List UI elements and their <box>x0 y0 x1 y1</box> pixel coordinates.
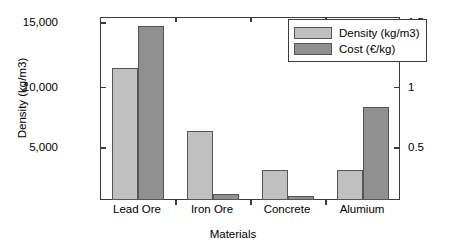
legend-label-cost: Cost (€/kg) <box>339 43 395 55</box>
left-tick-label: 15,000 <box>23 16 58 28</box>
category-label-lead-ore: Lead Ore <box>113 203 161 215</box>
legend: Density (kg/m3) Cost (€/kg) <box>288 19 427 62</box>
left-tick-label: 5,000 <box>29 141 58 153</box>
category-label-iron-ore: Iron Ore <box>191 203 233 215</box>
bottom-tick-mark <box>325 200 327 205</box>
bar-cost-concrete <box>288 196 314 200</box>
top-tick-mark <box>175 17 177 22</box>
bar-cost-alumium <box>363 107 389 200</box>
y-axis-left-title: Density (kg/m3) <box>16 28 28 168</box>
bar-cost-iron-ore <box>213 194 239 200</box>
left-tick-mark <box>100 87 106 89</box>
legend-swatch-cost-icon <box>294 43 332 55</box>
legend-label-density: Density (kg/m3) <box>339 27 420 39</box>
top-tick-mark <box>250 17 252 22</box>
left-tick-label: 10,000 <box>23 81 58 93</box>
category-label-concrete: Concrete <box>264 203 311 215</box>
bar-chart: 15,000 10,000 5,000 1.5 1 0.5 Lead Ore I… <box>0 0 466 247</box>
bar-density-alumium <box>337 170 363 200</box>
right-tick-label: 0.5 <box>408 141 424 153</box>
right-tick-mark <box>394 147 400 149</box>
right-tick-mark <box>394 87 400 89</box>
left-tick-mark <box>100 147 106 149</box>
right-tick-label: 1 <box>408 81 414 93</box>
bar-density-lead-ore <box>112 68 138 200</box>
legend-entry-density: Density (kg/m3) <box>294 25 420 40</box>
bottom-tick-mark <box>175 200 177 205</box>
category-label-alumium: Alumium <box>340 203 385 215</box>
legend-entry-cost: Cost (€/kg) <box>294 41 420 56</box>
left-tick-mark <box>100 22 106 24</box>
bar-cost-lead-ore <box>138 26 164 200</box>
bottom-tick-mark <box>250 200 252 205</box>
bar-density-concrete <box>262 170 288 200</box>
x-axis-title: Materials <box>0 228 466 240</box>
bar-density-iron-ore <box>187 131 213 200</box>
legend-swatch-density-icon <box>294 27 332 39</box>
